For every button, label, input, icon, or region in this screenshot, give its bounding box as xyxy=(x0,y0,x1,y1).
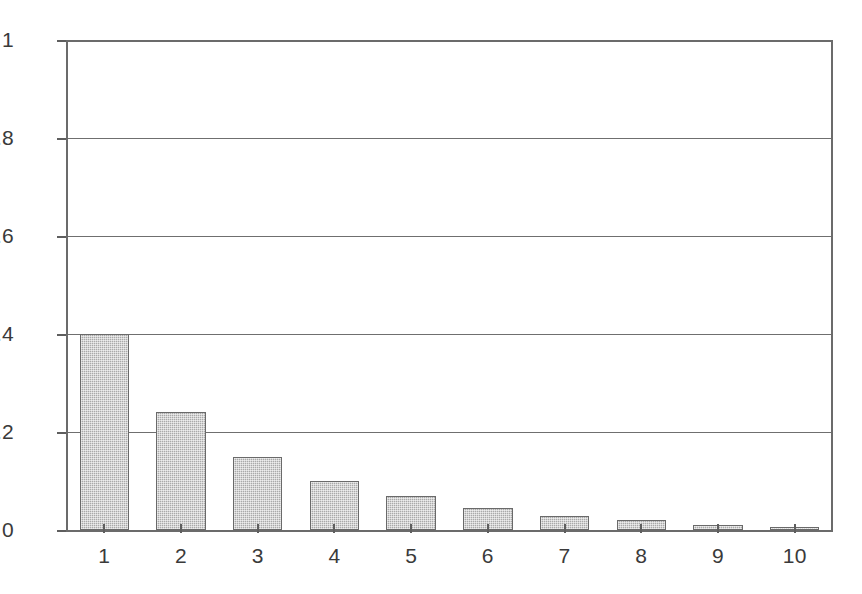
x-tick-5 xyxy=(410,524,412,533)
x-tick-6 xyxy=(487,524,489,533)
bar-1 xyxy=(80,334,129,530)
bar-chart-figure: 00.20.40.60.81 12345678910 xyxy=(0,0,862,594)
x-tick-7 xyxy=(564,524,566,533)
x-tick-10 xyxy=(794,524,796,533)
x-tick-label-5: 5 xyxy=(371,545,451,566)
x-tick-label-6: 6 xyxy=(448,545,528,566)
y-tick-label-0.2: 0.2 xyxy=(0,421,14,442)
y-tick-label-0.8: 0.8 xyxy=(0,127,14,148)
y-tick-0.2 xyxy=(57,432,66,434)
x-tick-label-4: 4 xyxy=(294,545,374,566)
y-tick-label-0: 0 xyxy=(0,519,14,540)
axis-frame-top xyxy=(66,40,833,42)
x-tick-label-3: 3 xyxy=(218,545,298,566)
x-tick-4 xyxy=(333,524,335,533)
x-tick-label-10: 10 xyxy=(755,545,835,566)
x-tick-9 xyxy=(717,524,719,533)
y-tick-0.8 xyxy=(57,138,66,140)
x-tick-label-7: 7 xyxy=(525,545,605,566)
x-tick-3 xyxy=(257,524,259,533)
x-tick-2 xyxy=(180,524,182,533)
x-tick-label-8: 8 xyxy=(601,545,681,566)
plot-area xyxy=(66,40,833,532)
y-tick-label-0.6: 0.6 xyxy=(0,225,14,246)
bar-4 xyxy=(310,481,359,530)
y-tick-0 xyxy=(57,530,66,532)
bar-series xyxy=(66,40,833,532)
y-axis-line xyxy=(66,40,68,532)
y-tick-0.4 xyxy=(57,334,66,336)
x-tick-8 xyxy=(640,524,642,533)
x-tick-label-9: 9 xyxy=(678,545,758,566)
y-tick-label-0.4: 0.4 xyxy=(0,323,14,344)
x-tick-label-1: 1 xyxy=(64,545,144,566)
x-tick-1 xyxy=(103,524,105,533)
y-tick-label-1: 1 xyxy=(0,29,14,50)
axis-frame-right xyxy=(831,40,833,532)
y-tick-0.6 xyxy=(57,236,66,238)
bar-2 xyxy=(156,412,205,530)
bar-3 xyxy=(233,457,282,531)
y-tick-1 xyxy=(57,40,66,42)
x-tick-label-2: 2 xyxy=(141,545,221,566)
